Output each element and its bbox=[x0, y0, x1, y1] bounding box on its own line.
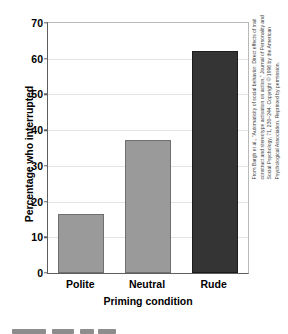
y-tick-mark bbox=[44, 22, 48, 23]
y-tick-label: 30 bbox=[31, 160, 43, 172]
bar-rude bbox=[192, 51, 238, 273]
y-tick-label: 20 bbox=[31, 196, 43, 208]
x-axis-title: Priming condition bbox=[47, 295, 249, 307]
x-tick-label-neutral: Neutral bbox=[129, 278, 165, 290]
caption-artifact bbox=[12, 327, 132, 334]
y-tick-mark bbox=[44, 129, 48, 130]
y-tick-mark bbox=[44, 201, 48, 202]
plot-area: 010203040506070 bbox=[47, 22, 249, 274]
bar-neutral bbox=[125, 140, 171, 273]
y-tick-mark bbox=[44, 165, 48, 166]
y-tick-label: 60 bbox=[31, 53, 43, 65]
y-tick-mark bbox=[44, 94, 48, 95]
source-credit: From Bargh et al., "Automaticity of soci… bbox=[251, 11, 282, 179]
x-tick-label-polite: Polite bbox=[66, 278, 95, 290]
x-tick-label-rude: Rude bbox=[201, 278, 227, 290]
y-tick-label: 50 bbox=[31, 88, 43, 100]
y-tick-label: 0 bbox=[37, 267, 43, 279]
y-tick-mark bbox=[44, 58, 48, 59]
y-tick-label: 10 bbox=[31, 231, 43, 243]
y-tick-label: 40 bbox=[31, 124, 43, 136]
y-tick-label: 70 bbox=[31, 17, 43, 29]
bar-polite bbox=[58, 214, 104, 273]
y-tick-mark bbox=[44, 272, 48, 273]
y-tick-mark bbox=[44, 237, 48, 238]
